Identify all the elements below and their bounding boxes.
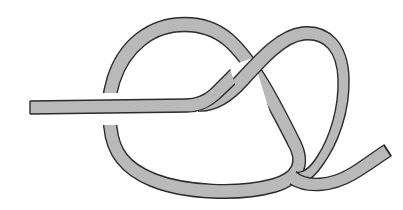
knot-diagram-svg: Knot Diagram	[0, 0, 403, 210]
knot-figure: Knot Diagram	[0, 0, 403, 210]
